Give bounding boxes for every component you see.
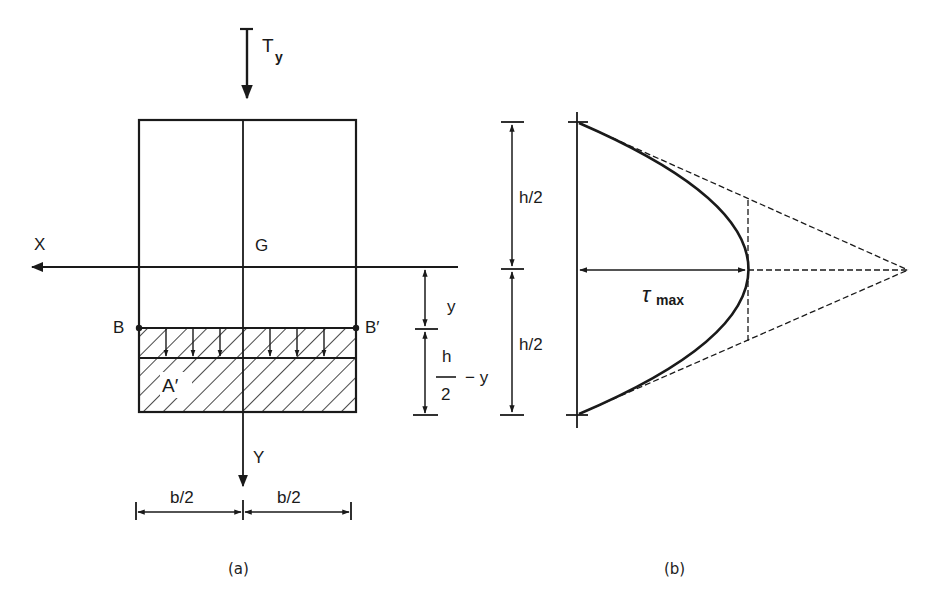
caption-b: (b) [664, 560, 685, 578]
force-label: T [262, 35, 274, 56]
parabolic-stress-curve [579, 123, 749, 414]
point-b-dot [136, 325, 142, 331]
point-b-label: B [113, 318, 124, 337]
dim-h-numerator: h [442, 347, 451, 366]
x-axis-label: X [34, 235, 45, 254]
point-b-prime-label: B′ [365, 318, 380, 337]
lower-half-label: h/2 [519, 335, 543, 354]
tangent-lines [579, 123, 908, 414]
dim-y-label: y [447, 297, 456, 316]
point-b-prime-dot [353, 325, 359, 331]
tau-label: τ [642, 282, 652, 307]
dimension-width [136, 500, 351, 520]
upper-half-label: h/2 [519, 188, 543, 207]
area-label: A′ [162, 375, 179, 396]
caption-a: (a) [228, 560, 249, 578]
figure-a: T y X Y G B B′ A′ [32, 29, 489, 578]
dimension-height [500, 122, 524, 415]
half-width-right-label: b/2 [277, 488, 301, 507]
tau-subscript: max [656, 292, 684, 308]
dim-minus-y: − y [465, 368, 489, 387]
dim-h-denominator: 2 [441, 385, 450, 404]
y-axis-label: Y [253, 448, 264, 467]
shear-stress-diagram: T y X Y G B B′ A′ [0, 0, 925, 603]
dimension-y [413, 270, 438, 415]
centroid-label: G [255, 236, 268, 255]
figure-b: h/2 h/2 τ max (b) [500, 112, 908, 578]
force-subscript: y [275, 49, 283, 65]
half-width-left-label: b/2 [170, 488, 194, 507]
force-arrow [240, 29, 253, 98]
